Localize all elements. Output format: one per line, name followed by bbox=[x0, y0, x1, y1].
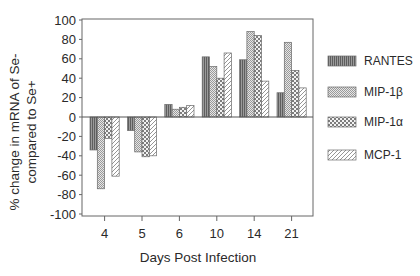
y-axis: 100806040200-20-40-60-80-100 bbox=[50, 13, 82, 222]
bar-mip-1--day-10 bbox=[217, 78, 224, 117]
x-tick-label: 21 bbox=[284, 226, 298, 241]
y-tick-label: 80 bbox=[62, 32, 76, 47]
bar-mcp-1-day-21 bbox=[299, 88, 306, 117]
bar-mip-1--day-5 bbox=[135, 117, 142, 152]
bar-series bbox=[90, 32, 306, 189]
legend-label: MIP-1β bbox=[364, 85, 403, 99]
legend-swatch bbox=[328, 87, 356, 97]
x-tick-label: 4 bbox=[101, 226, 108, 241]
bar-mip-1--day-6 bbox=[179, 107, 186, 117]
x-tick-label: 10 bbox=[210, 226, 224, 241]
legend-item-rantes: RANTES bbox=[328, 54, 413, 68]
bar-mip-1--day-4 bbox=[97, 117, 104, 189]
x-tick-label: 5 bbox=[138, 226, 145, 241]
bar-chart: % change in mRNA of Se- compared to Se+ … bbox=[0, 0, 420, 276]
y-tick-label: -60 bbox=[57, 168, 76, 183]
legend-swatch bbox=[328, 56, 356, 66]
bar-rantes-day-6 bbox=[165, 104, 172, 117]
bar-mcp-1-day-4 bbox=[112, 117, 119, 176]
y-tick-label: -40 bbox=[57, 148, 76, 163]
bar-rantes-day-10 bbox=[202, 57, 209, 117]
bar-mip-1--day-21 bbox=[292, 70, 299, 117]
y-axis-title: % change in mRNA of Se- compared to Se+ bbox=[7, 54, 39, 211]
legend-swatch bbox=[328, 117, 356, 127]
bar-mip-1--day-14 bbox=[254, 36, 261, 117]
legend-label: MCP-1 bbox=[364, 148, 402, 162]
bar-mip-1--day-4 bbox=[105, 117, 112, 138]
y-tick-label: 100 bbox=[54, 13, 76, 28]
bar-mip-1--day-21 bbox=[284, 42, 291, 117]
bar-mip-1--day-14 bbox=[247, 32, 254, 117]
x-tick-label: 6 bbox=[176, 226, 183, 241]
bar-mip-1--day-5 bbox=[142, 117, 149, 157]
legend-item-mip-1-: MIP-1α bbox=[328, 115, 403, 129]
y-tick-label: -80 bbox=[57, 187, 76, 202]
y-tick-label: 60 bbox=[62, 51, 76, 66]
bar-mcp-1-day-6 bbox=[187, 105, 194, 117]
bar-mcp-1-day-5 bbox=[149, 117, 156, 156]
x-tick-label: 14 bbox=[247, 226, 261, 241]
bar-mip-1--day-6 bbox=[172, 109, 179, 117]
bar-mcp-1-day-14 bbox=[262, 81, 269, 117]
y-tick-label: 20 bbox=[62, 90, 76, 105]
bar-rantes-day-4 bbox=[90, 117, 97, 150]
bar-rantes-day-5 bbox=[127, 117, 134, 131]
y-tick-label: 40 bbox=[62, 71, 76, 86]
y-axis-title-line-1: % change in mRNA of Se- bbox=[7, 54, 22, 211]
legend: RANTESMIP-1βMIP-1αMCP-1 bbox=[328, 54, 413, 162]
y-axis-title-line-2: compared to Se+ bbox=[24, 80, 39, 183]
x-axis: 456101421 bbox=[101, 216, 299, 241]
y-tick-label: -100 bbox=[50, 207, 76, 222]
bar-mip-1--day-10 bbox=[210, 67, 217, 117]
legend-item-mcp-1: MCP-1 bbox=[328, 148, 402, 162]
legend-label: RANTES bbox=[364, 54, 413, 68]
bar-rantes-day-14 bbox=[240, 60, 247, 117]
bar-rantes-day-21 bbox=[277, 93, 284, 117]
y-tick-label: -20 bbox=[57, 129, 76, 144]
legend-swatch bbox=[328, 150, 356, 160]
legend-item-mip-1-: MIP-1β bbox=[328, 85, 403, 99]
y-tick-label: 0 bbox=[69, 110, 76, 125]
legend-label: MIP-1α bbox=[364, 115, 403, 129]
bar-mcp-1-day-10 bbox=[224, 53, 231, 117]
x-axis-title: Days Post Infection bbox=[140, 250, 256, 265]
